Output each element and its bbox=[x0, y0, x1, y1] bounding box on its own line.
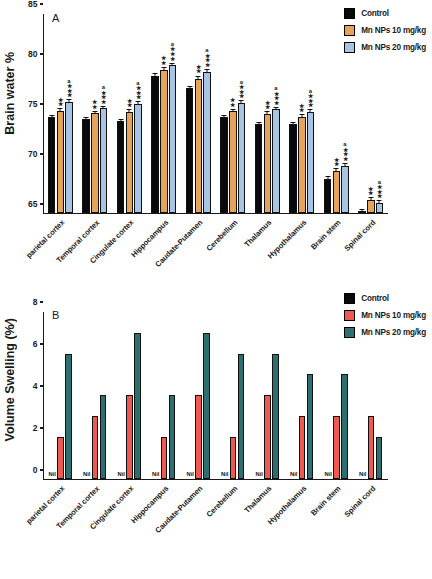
bar[interactable] bbox=[264, 114, 272, 212]
bar-groups-a: ★★a★★★★★a★★★★★a★★★★★a★★★★★a★★★★★a★★★★★a★… bbox=[43, 14, 388, 213]
bar[interactable] bbox=[203, 72, 211, 213]
error-bar bbox=[86, 118, 87, 119]
error-bar bbox=[129, 110, 130, 112]
bar[interactable] bbox=[272, 109, 280, 212]
bar-slot: ★★ bbox=[367, 14, 375, 213]
bar[interactable] bbox=[92, 416, 99, 478]
legend-item-b-row[interactable]: Control bbox=[344, 293, 426, 304]
error-bar bbox=[362, 210, 363, 211]
bar[interactable] bbox=[169, 65, 177, 213]
bar[interactable] bbox=[299, 416, 306, 478]
significance-star: ★ bbox=[196, 69, 201, 74]
bar[interactable] bbox=[230, 437, 237, 479]
bar-slot bbox=[220, 14, 228, 213]
bar[interactable] bbox=[57, 437, 64, 479]
bar-slot bbox=[117, 14, 125, 213]
significance-star: ★ bbox=[239, 94, 244, 99]
bar[interactable] bbox=[48, 117, 56, 212]
error-bar bbox=[68, 100, 69, 102]
bar[interactable] bbox=[57, 111, 65, 212]
bar[interactable] bbox=[151, 76, 159, 213]
bar[interactable] bbox=[376, 437, 383, 479]
error-bar-cap bbox=[239, 100, 244, 101]
bar[interactable] bbox=[376, 203, 384, 213]
error-bar-cap bbox=[265, 111, 270, 112]
bar[interactable] bbox=[126, 112, 134, 212]
significance-marker: ★★ bbox=[196, 65, 201, 74]
error-bar-cap bbox=[291, 122, 296, 123]
bar[interactable] bbox=[341, 374, 348, 478]
nil-label: Nil bbox=[83, 471, 90, 477]
bar[interactable] bbox=[229, 111, 237, 212]
bar[interactable] bbox=[65, 102, 73, 212]
bar[interactable] bbox=[255, 124, 263, 212]
y-axis-label-b: Volume Swelling (%⁄) bbox=[3, 318, 17, 441]
bar[interactable] bbox=[65, 354, 72, 479]
bar[interactable] bbox=[238, 354, 245, 479]
nil-label: Nil bbox=[49, 471, 56, 477]
bar[interactable] bbox=[160, 70, 168, 213]
bar[interactable] bbox=[368, 416, 375, 478]
bar[interactable] bbox=[100, 395, 107, 478]
bar[interactable] bbox=[341, 166, 349, 213]
significance-marker: a★★★ bbox=[205, 48, 210, 67]
bar[interactable] bbox=[203, 333, 210, 479]
plot-area-b: NilNilNilNilNilNilNilNilNilNil B 02468 bbox=[43, 312, 388, 480]
error-bar-cap bbox=[273, 107, 278, 108]
bar[interactable] bbox=[264, 395, 271, 478]
bar[interactable] bbox=[169, 395, 176, 478]
bar[interactable] bbox=[91, 113, 99, 212]
significance-marker: ★★ bbox=[92, 100, 97, 109]
bar-slot: ★★ bbox=[160, 14, 168, 213]
bar[interactable] bbox=[100, 108, 108, 212]
bar-slot bbox=[82, 14, 90, 213]
error-bar-cap bbox=[325, 176, 330, 177]
bar[interactable] bbox=[220, 117, 228, 212]
bar-slot bbox=[255, 14, 263, 213]
bar[interactable] bbox=[289, 124, 297, 212]
bar[interactable] bbox=[272, 354, 279, 479]
bar[interactable] bbox=[333, 416, 340, 478]
bar[interactable] bbox=[126, 395, 133, 478]
significance-star: ★ bbox=[170, 57, 175, 62]
error-bar bbox=[163, 68, 164, 69]
significance-star: ★ bbox=[334, 162, 339, 167]
panel-letter-b: B bbox=[52, 309, 59, 321]
y-tick-a-label: 65 bbox=[28, 199, 37, 209]
bar[interactable] bbox=[82, 119, 90, 212]
bar-slot bbox=[368, 312, 375, 479]
significance-marker: a★★★ bbox=[239, 80, 244, 99]
bar[interactable] bbox=[333, 171, 341, 213]
y-tick-b: 8 bbox=[33, 297, 43, 307]
bar[interactable] bbox=[307, 112, 315, 212]
bar[interactable] bbox=[161, 437, 168, 479]
bar[interactable] bbox=[358, 211, 366, 213]
bar[interactable] bbox=[195, 79, 203, 213]
x-axis-label-a-cell: Spinal cord bbox=[354, 216, 389, 276]
significance-marker: ★★ bbox=[368, 187, 373, 196]
bar[interactable] bbox=[186, 88, 194, 212]
nil-label: Nil bbox=[256, 471, 263, 477]
significance-marker: ★★ bbox=[161, 56, 166, 65]
bar[interactable] bbox=[238, 103, 246, 212]
error-bar bbox=[172, 64, 173, 65]
significance-star: ★ bbox=[343, 157, 348, 162]
y-tick-b: 2 bbox=[33, 423, 43, 433]
y-tick-b-mark bbox=[40, 469, 44, 470]
bar[interactable] bbox=[134, 333, 141, 479]
y-tick-a-label: 70 bbox=[28, 149, 37, 159]
significance-marker: ★★ bbox=[58, 98, 63, 107]
y-tick-a: 70 bbox=[28, 149, 43, 159]
x-axis-b bbox=[43, 479, 388, 480]
bar[interactable] bbox=[324, 179, 332, 213]
bar[interactable] bbox=[117, 121, 125, 212]
bar[interactable] bbox=[298, 117, 306, 212]
significance-star: ★ bbox=[205, 63, 210, 68]
significance-marker: a★★★ bbox=[170, 42, 175, 61]
bar[interactable] bbox=[367, 200, 375, 213]
bar[interactable] bbox=[195, 395, 202, 478]
bar[interactable] bbox=[134, 104, 142, 212]
bar[interactable] bbox=[307, 374, 314, 478]
significance-star: ★ bbox=[161, 61, 166, 66]
significance-marker: a★★★ bbox=[136, 81, 141, 100]
